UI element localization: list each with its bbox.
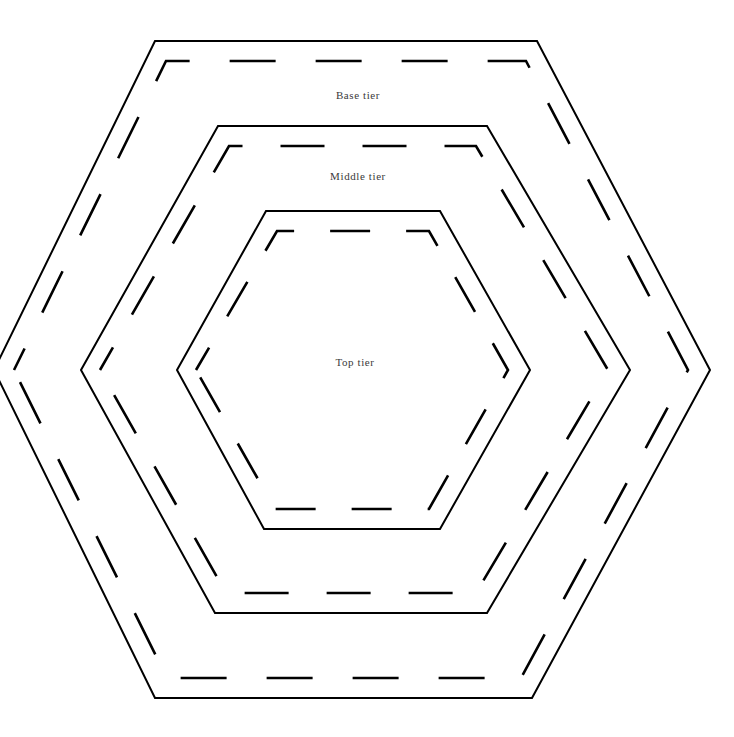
- top-tier-label: Top tier: [335, 356, 374, 368]
- base-tier-label: Base tier: [336, 89, 380, 101]
- pattern-sheet: Base tier Middle tier Top tier: [0, 0, 734, 737]
- hexagon-pattern-canvas: Base tier Middle tier Top tier: [0, 0, 734, 737]
- middle-tier-label: Middle tier: [330, 170, 386, 182]
- sheet-background: [0, 0, 734, 737]
